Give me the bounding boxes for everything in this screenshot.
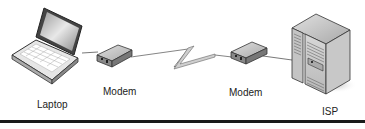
label-isp: ISP — [322, 106, 338, 117]
edge-modem2-isp — [263, 56, 292, 60]
modem-icon-left — [97, 45, 132, 67]
edge-laptop-modem1 — [82, 52, 98, 53]
server-icon — [292, 14, 357, 94]
laptop-icon — [12, 8, 82, 84]
edge-modem-lightning — [131, 46, 232, 69]
label-laptop: Laptop — [37, 99, 68, 110]
modem-icon-right — [231, 42, 267, 64]
label-modem-left: Modem — [103, 86, 136, 97]
bottom-divider — [0, 120, 365, 123]
label-modem-right: Modem — [229, 87, 262, 98]
